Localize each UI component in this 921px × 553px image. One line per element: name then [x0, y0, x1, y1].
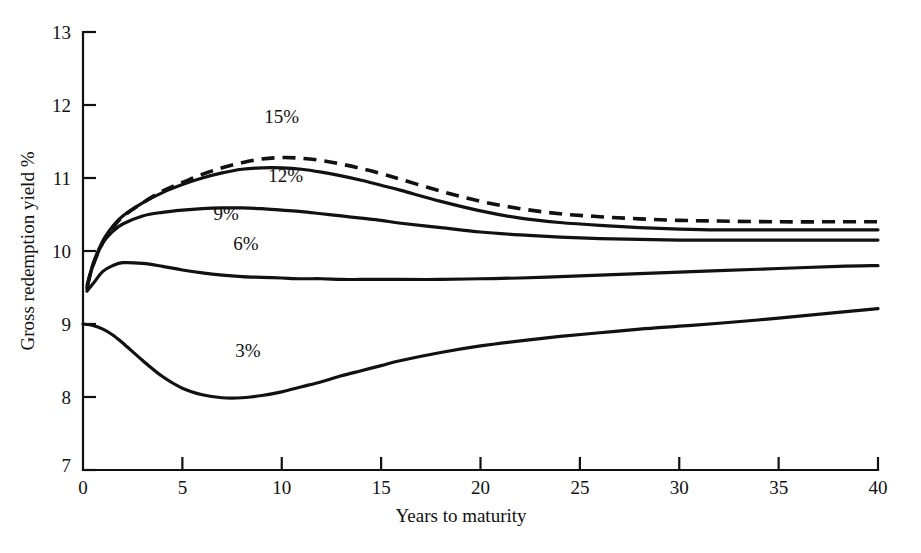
series-label-15pct: 15% [264, 106, 299, 127]
series-label-9pct: 9% [213, 203, 239, 224]
x-tick-label: 15 [372, 477, 391, 498]
y-tick-label: 13 [52, 22, 71, 43]
chart-container: 78910111213 0510152025303540 15%12%9%6%3… [0, 0, 921, 553]
x-tick-label: 10 [272, 477, 291, 498]
x-tick-label: 5 [178, 477, 188, 498]
yield-curve-chart: 78910111213 0510152025303540 15%12%9%6%3… [0, 0, 921, 553]
y-tick-label: 8 [62, 387, 72, 408]
y-axis-title: Gross redemption yield % [17, 151, 38, 350]
x-tick-label: 20 [471, 477, 490, 498]
series-label-3pct: 3% [235, 340, 261, 361]
x-tick-label: 35 [769, 477, 788, 498]
y-tick-label: 11 [53, 168, 71, 189]
y-tick-label: 9 [62, 314, 72, 335]
x-axis-title: Years to maturity [395, 505, 527, 526]
y-tick-label: 7 [62, 455, 72, 476]
series-label-12pct: 12% [268, 165, 303, 186]
series-label-6pct: 6% [233, 233, 259, 254]
y-tick-label: 10 [52, 241, 71, 262]
x-tick-label: 25 [570, 477, 589, 498]
x-tick-label: 0 [78, 477, 88, 498]
y-tick-label: 12 [52, 95, 71, 116]
x-tick-label: 40 [869, 477, 888, 498]
x-tick-label: 30 [670, 477, 689, 498]
